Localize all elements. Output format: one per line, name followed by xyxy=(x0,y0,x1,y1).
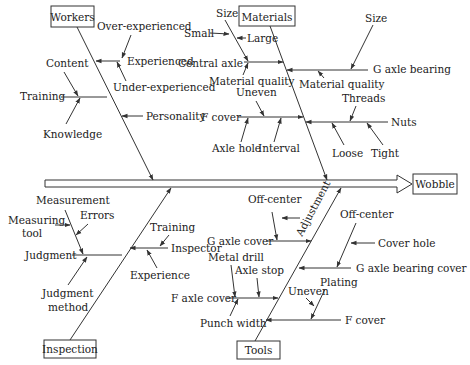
effect-label: Wobble xyxy=(415,178,454,190)
sub-errors: Errors xyxy=(80,209,114,221)
category-inspection: Inspection Judgment Measurement Measurin… xyxy=(8,188,223,358)
sub-judgment-method-line1: Judgment xyxy=(41,287,94,299)
cause-g-axle-bearing-cover: G axle bearing cover xyxy=(356,262,468,274)
sub-off-center-gac: Off-center xyxy=(248,193,303,205)
sub-axle-stop: Axle stop xyxy=(234,264,284,276)
sub-training-inspector: Training xyxy=(150,221,196,233)
sub-size-bearing: Size xyxy=(365,12,387,24)
cause-g-axle-cover: G axle cover xyxy=(207,235,274,247)
cause-nuts: Nuts xyxy=(391,116,417,128)
sub-measuring-tool-line1: Measuring xyxy=(8,214,66,226)
effect-box: Wobble xyxy=(413,174,457,194)
cause-training: Training xyxy=(20,90,66,102)
sub-content: Content xyxy=(46,57,89,69)
bone-materials xyxy=(270,26,327,180)
cause-judgment: Judgment xyxy=(24,249,77,261)
sub-judgment-method-line2: method xyxy=(48,301,88,313)
cause-f-cover-materials: F cover xyxy=(201,111,242,123)
category-tools: Tools Adjustment G axle cover Off-center… xyxy=(171,178,468,359)
sub-large: Large xyxy=(247,32,278,44)
cause-f-axle-cover: F axle cover xyxy=(171,292,237,304)
sub-loose: Loose xyxy=(332,147,363,159)
fishbone-diagram: Wobble Workers Experienced Over-experien… xyxy=(0,0,470,365)
sub-threads: Threads xyxy=(342,92,385,104)
cause-g-axle-bearing: G axle bearing xyxy=(373,63,451,75)
cause-f-cover-tools: F cover xyxy=(345,314,386,326)
sub-tight: Tight xyxy=(371,147,400,159)
sub-over-experienced: Over-experienced xyxy=(97,20,192,32)
cause-central-axle: Central axle xyxy=(178,57,243,69)
sub-punch-width: Punch width xyxy=(200,317,267,329)
sub-metal-drill: Metal drill xyxy=(208,251,265,263)
cause-personality: Personality xyxy=(146,110,205,122)
sub-measurement: Measurement xyxy=(36,194,111,206)
sub-cover-hole: Cover hole xyxy=(378,237,436,249)
sub-material-quality-bearing: Material quality xyxy=(299,78,384,90)
sub-knowledge: Knowledge xyxy=(43,128,102,140)
category-label-workers: Workers xyxy=(50,11,94,23)
sub-under-experienced: Under-experienced xyxy=(113,81,216,93)
category-materials: Materials Central axle Size Small Large … xyxy=(178,6,451,180)
sub-uneven-materials: Uneven xyxy=(236,86,277,98)
sub-measuring-tool-line2: tool xyxy=(22,227,43,239)
sub-off-center-gabc: Off-center xyxy=(340,208,395,220)
sub-experience: Experience xyxy=(130,269,190,281)
category-label-tools: Tools xyxy=(245,344,273,356)
category-label-inspection: Inspection xyxy=(42,343,98,355)
main-spine xyxy=(45,175,412,193)
category-label-materials: Materials xyxy=(242,11,293,23)
sub-interval: Interval xyxy=(258,142,301,154)
sub-plating: Plating xyxy=(320,276,358,288)
bone-workers xyxy=(77,27,153,180)
sub-axle-hole: Axle hole xyxy=(211,142,261,154)
sub-size-central: Size xyxy=(216,7,238,19)
